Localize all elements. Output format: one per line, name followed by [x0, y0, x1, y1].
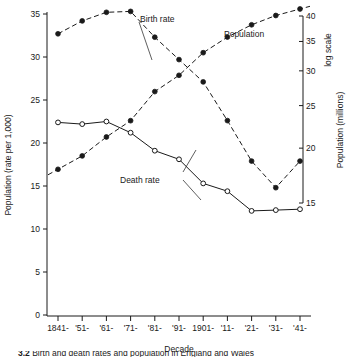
- data-point: [298, 207, 303, 212]
- x-tick-label: '41-: [293, 323, 307, 333]
- left-axis-ticks: 05101520253035: [31, 9, 47, 320]
- series-death-rate: [56, 119, 303, 213]
- y2-axis-subtitle: log scale: [323, 33, 333, 67]
- y-axis-title: Population (rate per 1,000): [3, 114, 13, 215]
- x-tick-label: '31-: [269, 323, 283, 333]
- left-tick-label: 20: [31, 138, 41, 148]
- right-tick-label: 15: [306, 198, 316, 208]
- left-tick-label: 5: [35, 267, 40, 277]
- data-point: [225, 118, 230, 123]
- right-tick-label: 20: [306, 143, 316, 153]
- series-line: [58, 122, 300, 211]
- data-point: [177, 57, 182, 62]
- data-point: [177, 157, 182, 162]
- caption-body: Birth and death rates and population in …: [32, 351, 254, 357]
- data-point: [104, 10, 109, 15]
- x-tick-label: 1841-: [47, 323, 69, 333]
- left-tick-label: 35: [31, 9, 41, 19]
- left-tick-label: 10: [31, 224, 41, 234]
- data-point: [152, 148, 157, 153]
- left-tick-label: 30: [31, 52, 41, 62]
- annotation-leaders: [139, 22, 201, 200]
- left-tick-label: 15: [31, 181, 41, 191]
- population-rates-chart: 05101520253035 152025303540 1841-'51-'61…: [0, 0, 353, 357]
- x-tick-label: '51-: [75, 323, 89, 333]
- caption-number: 3.2: [18, 351, 30, 357]
- x-tick-label: '61-: [99, 323, 113, 333]
- data-point: [80, 122, 85, 127]
- data-point: [249, 22, 254, 27]
- x-tick-label: '71-: [124, 323, 138, 333]
- right-tick-label: 25: [306, 101, 316, 111]
- data-point: [273, 13, 278, 18]
- x-tick-label: 1901-: [192, 323, 214, 333]
- data-point: [298, 159, 303, 164]
- x-tick-label: '11-: [221, 323, 234, 333]
- right-axis-ticks: 152025303540: [299, 11, 316, 208]
- data-point: [128, 118, 133, 123]
- death-rate-leader: [183, 150, 196, 172]
- death-rate-label: Death rate: [120, 175, 160, 185]
- death-rate-leader-2: [183, 180, 201, 200]
- data-point: [80, 154, 85, 159]
- data-point: [201, 80, 206, 85]
- data-point: [152, 89, 157, 94]
- series-line: [48, 6, 310, 175]
- figure-container: 05101520253035 152025303540 1841-'51-'61…: [0, 0, 353, 357]
- data-point: [201, 181, 206, 186]
- figure-caption: 3.2 Birth and death rates and population…: [0, 351, 353, 357]
- data-point: [104, 119, 109, 124]
- right-tick-label: 40: [306, 11, 316, 21]
- left-tick-label: 25: [31, 95, 41, 105]
- left-tick-label: 0: [35, 310, 40, 320]
- data-series-layer: [48, 6, 310, 213]
- data-point: [128, 130, 133, 135]
- data-point: [128, 9, 133, 14]
- data-point: [273, 185, 278, 190]
- right-tick-label: 30: [306, 66, 316, 76]
- data-point: [273, 208, 278, 213]
- data-point: [80, 19, 85, 24]
- data-point: [56, 31, 61, 36]
- data-point: [177, 73, 182, 78]
- birth-rate-label: Birth rate: [140, 14, 175, 24]
- data-point: [152, 35, 157, 40]
- data-point: [56, 167, 61, 172]
- x-tick-label: '81-: [148, 323, 162, 333]
- data-point: [298, 7, 303, 12]
- data-point: [249, 159, 254, 164]
- bottom-axis-ticks: 1841-'51-'61-'71-'81-'91-1901-'11-'21-'3…: [47, 316, 307, 333]
- series-birth-rate: [56, 9, 303, 190]
- x-tick-label: '91-: [172, 323, 186, 333]
- series-population: [48, 6, 310, 175]
- y2-axis-title: Population (millions): [335, 92, 345, 169]
- data-point: [56, 120, 61, 125]
- data-point: [201, 50, 206, 55]
- data-point: [225, 189, 230, 194]
- data-point: [249, 209, 254, 214]
- right-tick-label: 35: [306, 36, 316, 46]
- data-point: [104, 135, 109, 140]
- population-label: Population: [224, 29, 264, 39]
- x-tick-label: '21-: [245, 323, 259, 333]
